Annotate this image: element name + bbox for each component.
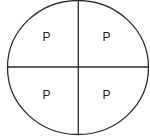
quadrant-label-bottom-right: P: [102, 88, 110, 102]
quadrant-label-top-left: P: [42, 30, 50, 44]
quadrant-label-bottom-left: P: [42, 88, 50, 102]
quadrant-label-top-right: P: [102, 30, 110, 44]
punnett-circle-diagram: P P P P: [0, 0, 150, 138]
